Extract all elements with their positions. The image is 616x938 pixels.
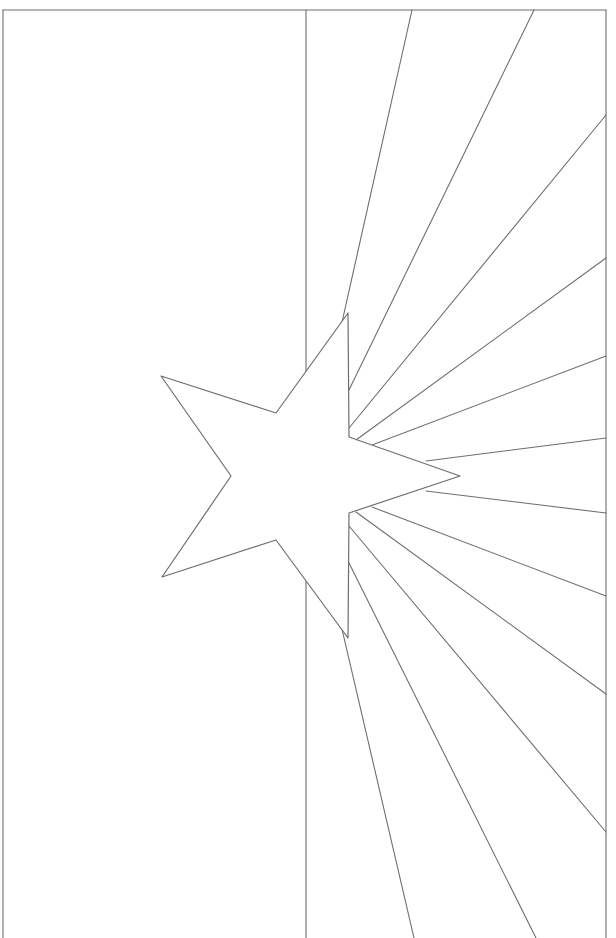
sun-ray bbox=[372, 356, 606, 445]
sun-ray bbox=[426, 491, 606, 513]
sun-ray bbox=[349, 526, 606, 832]
sun-ray bbox=[338, 10, 412, 340]
sun-ray bbox=[349, 115, 606, 428]
sun-ray bbox=[338, 612, 414, 938]
sun-ray bbox=[348, 10, 534, 392]
sun-ray bbox=[349, 563, 536, 938]
star-icon bbox=[161, 313, 460, 638]
sun-ray bbox=[372, 507, 606, 596]
sun-ray bbox=[356, 512, 606, 694]
sun-ray bbox=[356, 258, 606, 440]
coloring-page-canvas bbox=[0, 0, 616, 938]
sun-ray bbox=[426, 438, 606, 461]
